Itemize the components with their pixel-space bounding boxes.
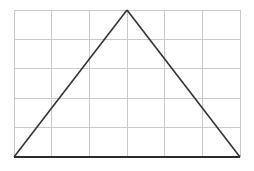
triangle-left-side [14,10,127,157]
geometry-figure [0,0,254,171]
triangle-right-side [127,10,240,157]
figure-canvas [0,0,254,171]
background-grid [14,10,240,157]
